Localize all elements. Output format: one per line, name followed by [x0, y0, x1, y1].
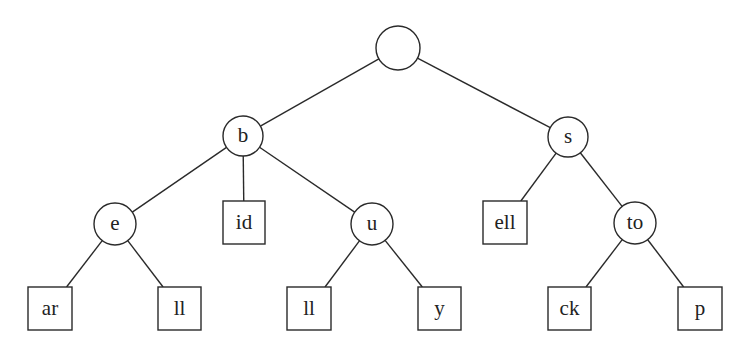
- node-label: to: [627, 210, 643, 234]
- node-label: ar: [42, 296, 58, 320]
- node-label: b: [238, 123, 249, 147]
- leaf-node-id: id: [223, 201, 265, 244]
- edges: [67, 58, 684, 287]
- edge-b-u: [260, 147, 355, 212]
- node-label: p: [695, 296, 706, 320]
- edge-u-ll2: [325, 241, 359, 287]
- leaf-node-ck: ck: [548, 287, 591, 330]
- node-label: s: [564, 124, 572, 148]
- leaf-node-p: p: [678, 287, 722, 330]
- edge-s-to: [580, 153, 622, 207]
- leaf-node-y: y: [418, 287, 461, 330]
- leaf-node-ll2: ll: [287, 287, 331, 330]
- trie-node-b: b: [223, 116, 263, 156]
- node-label: y: [434, 296, 445, 320]
- node-label: ell: [495, 210, 516, 234]
- trie-node-u: u: [351, 203, 393, 245]
- node-label: u: [367, 211, 378, 235]
- edge-b-e: [132, 147, 226, 212]
- trie-node-root: [376, 26, 420, 70]
- edge-root-s: [417, 58, 550, 128]
- leaf-node-ll1: ll: [158, 287, 201, 330]
- edge-s-ell: [521, 153, 556, 201]
- edge-to-ck: [586, 240, 622, 287]
- trie-node-to: to: [614, 202, 656, 244]
- trie-diagram: bseiduelltoarllllyckp: [0, 0, 752, 345]
- node-circle: [376, 26, 420, 70]
- node-label: id: [236, 210, 253, 234]
- leaf-node-ar: ar: [28, 287, 72, 330]
- node-label: ll: [303, 296, 315, 320]
- leaf-node-ell: ell: [483, 201, 527, 244]
- node-label: e: [110, 211, 119, 235]
- edge-root-b: [260, 59, 378, 126]
- node-label: ll: [174, 296, 186, 320]
- edge-e-ll1: [128, 241, 163, 287]
- trie-node-s: s: [548, 117, 588, 157]
- edge-e-ar: [67, 241, 103, 287]
- edge-to-p: [648, 240, 684, 287]
- edge-u-y: [385, 240, 422, 287]
- node-label: ck: [560, 296, 580, 320]
- trie-diagram-svg: bseiduelltoarllllyckp: [0, 0, 752, 345]
- edge-b-id: [243, 156, 244, 201]
- trie-node-e: e: [94, 203, 136, 245]
